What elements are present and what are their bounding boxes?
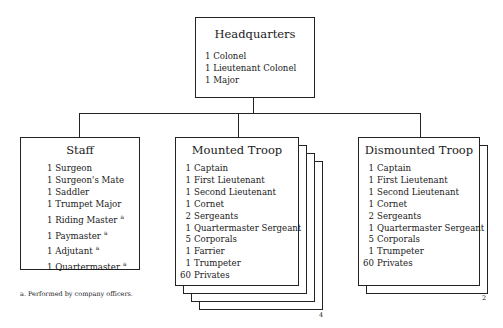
- list-item: 1Second Lieutenant: [363, 187, 484, 199]
- list-item: 1 Major: [205, 75, 296, 87]
- dismounted-troop-list: 1Captain 1First Lieutenant 1Second Lieut…: [363, 163, 484, 270]
- list-item: 1 Surgeon: [47, 163, 127, 175]
- dismounted-troop-box: Dismounted Troop 1Captain 1First Lieuten…: [358, 137, 480, 286]
- list-item: 60Privates: [363, 258, 484, 270]
- list-item: 1 Trumpet Major: [47, 199, 127, 211]
- footnote-marker: a: [123, 260, 127, 267]
- list-item: 1Quartermaster Sergeant: [180, 223, 301, 235]
- connector-hq-down: [253, 97, 254, 113]
- footnote: a. Performed by company officers.: [20, 290, 133, 298]
- list-item: 1 Lieutenant Colonel: [205, 63, 296, 75]
- list-item: 2Sergeants: [180, 211, 301, 223]
- list-item: 1 Quartermastera: [47, 258, 127, 274]
- list-item: 60Privates: [180, 270, 301, 282]
- connector-staff: [79, 113, 80, 137]
- dismounted-troop-title: Dismounted Troop: [359, 143, 479, 157]
- mounted-troop-box: Mounted Troop 1Captain 1First Lieutenant…: [175, 137, 299, 286]
- list-item: 1Quartermaster Sergeant: [363, 223, 484, 235]
- list-item: 1 Paymastera: [47, 227, 127, 243]
- list-item: 1Trumpeter: [180, 258, 301, 270]
- mounted-troop-title: Mounted Troop: [176, 143, 298, 157]
- headquarters-title: Headquarters: [196, 27, 314, 41]
- mounted-troop-count: 4: [319, 311, 323, 319]
- list-item: 1First Lieutenant: [180, 175, 301, 187]
- list-item: 1Cornet: [180, 199, 301, 211]
- list-item: 1Trumpeter: [363, 246, 484, 258]
- staff-list: 1 Surgeon 1 Surgeon's Mate 1 Saddler 1 T…: [47, 163, 127, 274]
- list-item: 1Cornet: [363, 199, 484, 211]
- dismounted-troop-count: 2: [482, 294, 486, 302]
- staff-title: Staff: [21, 143, 139, 157]
- footnote-marker: a: [104, 229, 108, 236]
- headquarters-box: Headquarters 1 Colonel 1 Lieutenant Colo…: [195, 17, 315, 98]
- list-item: 5Corporals: [363, 234, 484, 246]
- connector-dismounted: [420, 113, 421, 137]
- list-item: 1 Saddler: [47, 187, 127, 199]
- list-item: 1 Riding Mastera: [47, 211, 127, 227]
- list-item: 1 Adjutanta: [47, 242, 127, 258]
- list-item: 1First Lieutenant: [363, 175, 484, 187]
- list-item: 1Farrier: [180, 246, 301, 258]
- list-item: 2Sergeants: [363, 211, 484, 223]
- staff-box: Staff 1 Surgeon 1 Surgeon's Mate 1 Saddl…: [20, 137, 140, 270]
- list-item: 5Corporals: [180, 234, 301, 246]
- footnote-marker: a: [96, 244, 100, 251]
- headquarters-list: 1 Colonel 1 Lieutenant Colonel 1 Major: [205, 51, 296, 87]
- footnote-marker: a: [120, 213, 124, 220]
- list-item: 1Captain: [180, 163, 301, 175]
- list-item: 1 Surgeon's Mate: [47, 175, 127, 187]
- list-item: 1Captain: [363, 163, 484, 175]
- list-item: 1 Colonel: [205, 51, 296, 63]
- list-item: 1Second Lieutenant: [180, 187, 301, 199]
- mounted-troop-list: 1Captain 1First Lieutenant 1Second Lieut…: [180, 163, 301, 282]
- connector-horizontal: [79, 113, 421, 114]
